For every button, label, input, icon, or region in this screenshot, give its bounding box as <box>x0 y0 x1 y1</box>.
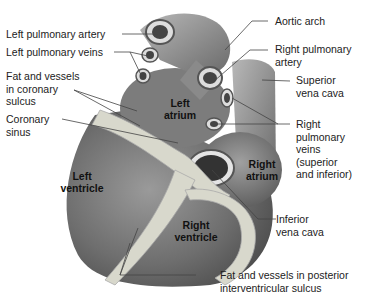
label-inferior-vena-cava: Inferior vena cava <box>276 213 324 238</box>
heart-diagram: Left pulmonary artery Left pulmonary vei… <box>0 0 368 308</box>
label-fat-vessels-posterior-interventricular-sulcus: Fat and vessels in posterior interventri… <box>220 269 348 294</box>
label-aortic-arch: Aortic arch <box>275 15 325 28</box>
label-superior-vena-cava: Superior vena cava <box>296 74 344 99</box>
label-right-pulmonary-veins: Right pulmonary veins (superior and infe… <box>296 118 352 181</box>
label-left-atrium: Left atrium <box>158 97 202 121</box>
label-left-pulmonary-veins: Left pulmonary veins <box>6 46 103 59</box>
label-coronary-sinus: Coronary sinus <box>6 113 49 138</box>
label-left-ventricle: Left ventricle <box>54 170 110 194</box>
label-left-pulmonary-artery: Left pulmonary artery <box>6 28 105 41</box>
label-fat-vessels-coronary-sulcus: Fat and vessels in coronary sulcus <box>6 70 80 108</box>
label-right-pulmonary-artery: Right pulmonary artery <box>275 43 351 68</box>
label-right-atrium: Right atrium <box>240 158 284 182</box>
label-right-ventricle: Right ventricle <box>168 219 224 243</box>
